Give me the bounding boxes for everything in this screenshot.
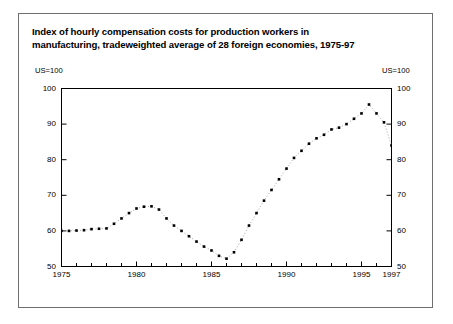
chart-figure: Index of hourly compensation costs for p…	[0, 0, 453, 324]
chart-title-line-2: manufacturing, tradeweighted average of …	[32, 39, 372, 52]
unit-label-right: US=100	[382, 66, 410, 75]
x-axis-tick-label: 1980	[122, 270, 152, 279]
y-axis-tick-label-left: 70	[34, 190, 56, 199]
y-axis-tick-label-right: 70	[397, 190, 421, 199]
x-axis-tick-label: 1975	[47, 270, 77, 279]
y-axis-tick-label-right: 60	[397, 226, 421, 235]
chart-title: Index of hourly compensation costs for p…	[32, 26, 372, 51]
plot-svg	[61, 88, 392, 267]
x-axis-tick-label: 1995	[347, 270, 377, 279]
y-axis-tick-label-right: 90	[397, 119, 421, 128]
chart-title-line-1: Index of hourly compensation costs for p…	[32, 26, 372, 39]
y-axis-tick-label-left: 90	[34, 119, 56, 128]
y-axis-tick-label-left: 60	[34, 226, 56, 235]
y-axis-tick-label-left: 100	[34, 84, 56, 93]
x-axis-tick-label: 1990	[272, 270, 302, 279]
y-axis-tick-label-right: 80	[397, 155, 421, 164]
unit-label-left: US=100	[35, 66, 63, 75]
y-axis-tick-label-right: 100	[397, 84, 421, 93]
y-axis-tick-label-left: 80	[34, 155, 56, 164]
x-axis-tick-label: 1997	[377, 270, 407, 279]
x-axis-tick-label: 1985	[197, 270, 227, 279]
plot-area	[61, 88, 392, 267]
